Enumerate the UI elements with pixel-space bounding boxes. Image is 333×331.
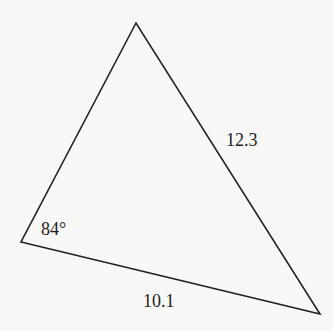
triangle-shape [21,23,320,314]
side-length-label-right: 12.3 [226,131,258,149]
triangle-figure [0,0,333,331]
angle-label-left-vertex: 84° [41,220,66,238]
triangle-diagram: 84° 12.3 10.1 [0,0,333,331]
side-length-label-bottom: 10.1 [143,292,175,310]
